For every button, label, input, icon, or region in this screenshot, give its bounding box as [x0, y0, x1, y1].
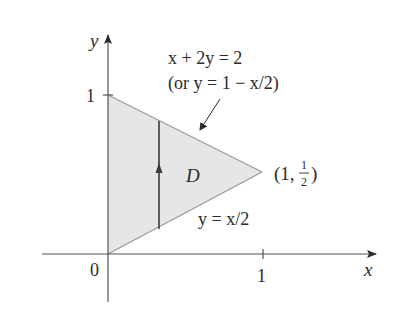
vertex-label: (1, 1 2 )	[274, 158, 317, 189]
origin-label: 0	[90, 260, 99, 280]
y-axis-label: y	[88, 30, 99, 51]
y-tick-label: 1	[86, 86, 95, 106]
region-d	[108, 95, 262, 254]
vertex-label-prefix: (1,	[274, 163, 295, 185]
vertex-frac-num: 1	[301, 158, 307, 172]
x-tick-label: 1	[257, 266, 266, 286]
vertex-label-suffix: )	[311, 163, 317, 185]
vertex-frac-den: 2	[301, 175, 307, 189]
upper-boundary-alt-equation: (or y = 1 − x/2)	[168, 73, 279, 94]
x-axis-label: x	[363, 259, 373, 280]
region-label: D	[185, 165, 200, 186]
pointer-arrow	[200, 99, 220, 130]
upper-boundary-equation: x + 2y = 2	[168, 48, 242, 68]
region-diagram: y x 1 1 0 D x + 2y = 2 (or y = 1 − x/2) …	[0, 0, 398, 322]
lower-boundary-equation: y = x/2	[198, 209, 249, 229]
